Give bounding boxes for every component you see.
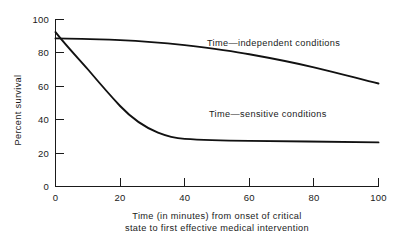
y-tick-label-100: 100: [33, 14, 49, 25]
series-label-time-independent: Time—independent conditions: [207, 38, 340, 48]
y-tick-marks: [56, 20, 65, 187]
x-axis-title-line1: Time (in minutes) from onset of critical: [132, 211, 301, 221]
x-tick-label-20: 20: [115, 192, 126, 203]
chart-canvas: 100 80 60 40 20 0 0 20 40 60 80 100 Perc…: [0, 0, 395, 239]
x-tick-marks: [56, 178, 379, 187]
survival-curve-chart: 100 80 60 40 20 0 0 20 40 60 80 100 Perc…: [0, 0, 395, 239]
x-tick-label-0: 0: [53, 192, 58, 203]
y-tick-label-80: 80: [38, 47, 49, 58]
y-tick-label-60: 60: [38, 81, 49, 92]
series-label-time-sensitive: Time—sensitive conditions: [209, 109, 327, 119]
x-tick-label-100: 100: [370, 192, 386, 203]
y-axis-title: Percent survival: [13, 75, 23, 146]
y-tick-label-20: 20: [38, 148, 49, 159]
x-tick-label-40: 40: [179, 192, 190, 203]
x-tick-label-80: 80: [308, 192, 319, 203]
x-tick-label-60: 60: [244, 192, 255, 203]
y-tick-label-40: 40: [38, 114, 49, 125]
y-tick-label-0: 0: [44, 181, 49, 192]
x-axis-title-line2: state to first effective medical interve…: [125, 223, 309, 233]
